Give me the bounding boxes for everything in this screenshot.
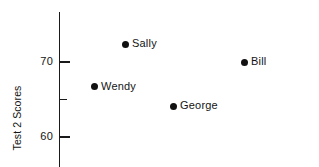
y-axis-title: Test 2 Scores bbox=[11, 68, 23, 167]
data-point-marker-icon bbox=[170, 103, 177, 110]
data-point-label: Bill bbox=[251, 55, 266, 67]
y-axis-tick-label-text: 70 bbox=[29, 56, 53, 67]
y-axis-major-tick bbox=[59, 136, 70, 137]
scatter-plot-figure: 7060 Test 2 Scores SallyBillWendyGeorge bbox=[0, 0, 319, 167]
data-point-label: Sally bbox=[132, 37, 157, 49]
y-axis-tick-label: 70 bbox=[29, 56, 53, 68]
data-point-label: George bbox=[180, 99, 218, 111]
y-axis-tick-label-text: 60 bbox=[29, 131, 53, 142]
data-point-marker-icon bbox=[122, 41, 129, 48]
y-axis-tick-label: 60 bbox=[29, 131, 53, 143]
y-axis-major-tick bbox=[59, 61, 70, 62]
data-point-marker-icon bbox=[91, 83, 98, 90]
y-axis-minor-tick bbox=[59, 99, 67, 100]
data-point-label: Wendy bbox=[101, 80, 136, 92]
y-axis-line bbox=[59, 12, 60, 167]
data-point-marker-icon bbox=[241, 59, 248, 66]
